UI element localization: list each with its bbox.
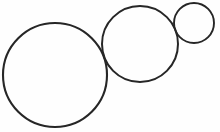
circles-figure [0, 0, 220, 132]
drawing-canvas [0, 0, 220, 132]
